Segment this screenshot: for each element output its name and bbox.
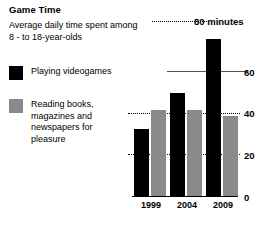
y-tick-20: 20 (244, 150, 255, 161)
y-tick-40: 40 (244, 108, 255, 119)
plot-area (132, 30, 238, 197)
bar-videogames-1999 (134, 129, 149, 196)
x-tick-2004: 2004 (170, 200, 204, 210)
y-tick-60: 60 (244, 67, 255, 78)
chart-title: Game Time (9, 4, 61, 15)
legend-label-reading: Reading books, magazines and newspapers … (31, 99, 127, 145)
bar-reading-2009 (223, 116, 238, 195)
bar-reading-1999 (151, 110, 166, 196)
bar-videogames-2009 (206, 39, 221, 196)
x-tick-1999: 1999 (134, 200, 168, 210)
x-tick-2009: 2009 (206, 200, 240, 210)
bar-videogames-2004 (170, 93, 185, 195)
chart-subtitle: Average daily time spent among 8 - to 18… (9, 20, 139, 43)
y-tick-0: 0 (244, 192, 249, 203)
bar-group-1999 (134, 29, 168, 196)
chart-figure: Game Time Average daily time spent among… (0, 0, 271, 230)
bar-group-2004 (170, 29, 204, 196)
annotation-line-80 (152, 21, 207, 22)
x-axis-baseline (132, 196, 238, 198)
legend-item-reading: Reading books, magazines and newspapers … (9, 99, 127, 145)
legend-item-videogames: Playing videogames (9, 66, 127, 80)
legend-label-videogames: Playing videogames (31, 66, 127, 78)
black-square-swatch (9, 66, 23, 80)
bar-group-2009 (206, 29, 240, 196)
bar-reading-2004 (187, 110, 202, 196)
gray-square-swatch (9, 99, 23, 113)
